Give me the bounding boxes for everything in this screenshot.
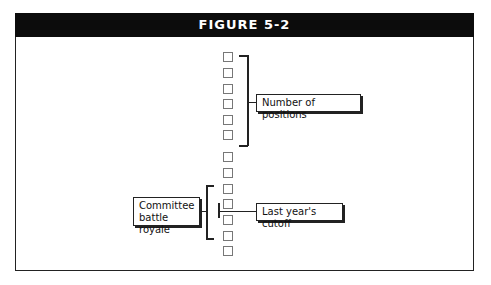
candidate-square — [223, 99, 233, 109]
committee-label: Committee battle royale — [133, 197, 200, 226]
candidate-square — [223, 115, 233, 125]
candidate-square — [223, 246, 233, 256]
candidate-square — [223, 152, 233, 162]
positions-label: Number of positions — [256, 94, 361, 112]
candidate-square — [223, 68, 233, 78]
candidate-square — [223, 184, 233, 194]
candidate-square — [223, 215, 233, 225]
candidate-square — [223, 199, 233, 209]
committee-label-line2: battle royale — [139, 212, 194, 236]
candidate-square — [223, 168, 233, 178]
cutoff-label: Last year's cutoff — [256, 203, 343, 221]
candidate-square — [223, 130, 233, 140]
figure-title: FIGURE 5-2 — [15, 13, 474, 37]
candidate-square — [223, 231, 233, 241]
candidate-square — [223, 52, 233, 62]
candidate-square — [223, 84, 233, 94]
committee-label-line1: Committee — [139, 200, 194, 212]
figure-frame — [15, 13, 474, 271]
